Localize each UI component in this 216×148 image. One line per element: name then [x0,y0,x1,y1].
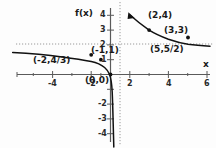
x-axis-label: x [203,60,209,69]
point-label-5-52: (5,5/2) [150,45,184,54]
y-tick-label-4: 4 [100,11,106,19]
y-tick-label-neg4: -4 [98,130,107,138]
point-label-origin: (0,0) [85,76,109,85]
y-tick-label-neg2: -2 [98,100,107,108]
y-tick-label-neg3: -3 [98,115,107,123]
point-label-2-4: (2,4) [148,11,172,20]
y-tick-label-3: 3 [100,26,106,34]
curve-arrowhead [128,12,135,19]
point-label-neg2-43: (-2,4/3) [33,56,70,65]
point-label-neg1-1: (-1,1) [91,46,119,55]
graph-figure: f(x) x -4 -2 2 4 6 4 3 2 1 -2 -3 -4 (2,4… [0,0,216,148]
x-tick-label-2: 2 [127,80,133,88]
point-3-3 [147,28,151,32]
x-tick-label-neg4: -4 [48,80,57,88]
x-tick-label-6: 6 [204,80,210,88]
point-label-3-3: (3,3) [164,26,188,35]
y-axis-label: f(x) [75,9,93,18]
y-tick-label-1: 1 [101,56,107,64]
x-tick-label-4: 4 [166,80,172,88]
point-5-52 [186,36,190,40]
function-plot-svg [0,0,216,148]
